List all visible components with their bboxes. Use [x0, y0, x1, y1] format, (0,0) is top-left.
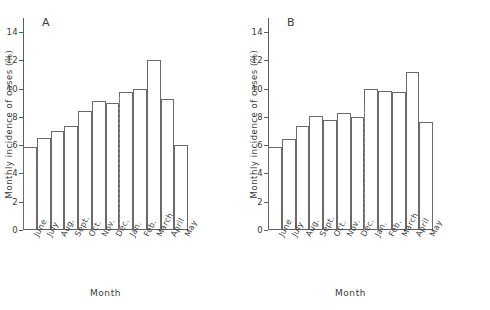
panel-b-y-tick — [264, 173, 268, 174]
panel-b-y-tick-label: 8 — [257, 112, 263, 122]
panel-a-y-tick-label: 0 — [12, 225, 18, 235]
bar-sept — [309, 116, 323, 230]
bar-july — [282, 139, 296, 230]
bar-sept — [64, 126, 78, 230]
panel-a-y-tick-label: 10 — [7, 84, 18, 94]
panel-a-y-tick-label: 12 — [7, 55, 18, 65]
bar-july — [37, 138, 51, 230]
panel-b-y-tick — [264, 202, 268, 203]
bar-oct — [323, 120, 337, 230]
bar-feb — [133, 89, 147, 230]
panel-a: A Monthly incidence of cases (%) JuneJul… — [0, 0, 245, 310]
panel-a-y-tick — [19, 89, 23, 90]
panel-a-y-tick — [19, 32, 23, 33]
bar-may — [419, 122, 433, 230]
year-divider-line — [119, 97, 120, 230]
figure-two-panel-bar-charts: A Monthly incidence of cases (%) JuneJul… — [0, 0, 490, 310]
bar-aug — [296, 126, 310, 230]
panel-b-bars — [268, 18, 433, 230]
panel-b-x-axis-title: Month — [268, 288, 433, 298]
panel-b-y-tick — [264, 89, 268, 90]
panel-a-y-tick — [19, 117, 23, 118]
panel-a-y-tick — [19, 60, 23, 61]
panel-a-y-tick — [19, 145, 23, 146]
panel-a-y-tick — [19, 173, 23, 174]
panel-b: B Monthly incidence of cases (%) JuneJul… — [245, 0, 490, 310]
panel-b-y-tick — [264, 145, 268, 146]
panel-b-y-tick-label: 4 — [257, 168, 263, 178]
panel-b-y-tick — [264, 230, 268, 231]
panel-a-y-tick-label: 14 — [7, 27, 18, 37]
panel-b-y-tick-label: 0 — [257, 225, 263, 235]
panel-b-y-tick-label: 12 — [252, 55, 263, 65]
year-divider-line — [364, 111, 365, 230]
panel-b-y-tick — [264, 117, 268, 118]
panel-a-y-tick-label: 6 — [12, 140, 18, 150]
bar-dec — [351, 117, 365, 230]
panel-a-y-tick — [19, 202, 23, 203]
bar-jan — [364, 89, 378, 230]
bar-nov — [337, 113, 351, 230]
panel-b-y-tick-label: 6 — [257, 140, 263, 150]
panel-b-y-tick — [264, 32, 268, 33]
bar-june — [268, 147, 282, 230]
bar-april — [406, 72, 420, 230]
bar-june — [23, 147, 37, 230]
panel-a-x-axis-title: Month — [23, 288, 188, 298]
panel-a-y-tick — [19, 230, 23, 231]
bar-dec — [106, 103, 120, 230]
panel-b-y-tick-label: 10 — [252, 84, 263, 94]
bar-feb — [378, 91, 392, 230]
bar-march — [392, 92, 406, 231]
bar-oct — [78, 111, 92, 230]
panel-a-y-tick-label: 4 — [12, 168, 18, 178]
panel-a-bars — [23, 18, 188, 230]
bar-jan — [119, 92, 133, 230]
panel-b-y-tick-label: 14 — [252, 27, 263, 37]
panel-a-y-tick-label: 2 — [12, 197, 18, 207]
panel-b-y-tick-label: 2 — [257, 197, 263, 207]
panel-a-plot-area: JuneJulyAug.Sept.Oct.Nov.Dec.Jan.Feb.Mar… — [23, 18, 188, 230]
bar-aug — [51, 131, 65, 230]
bar-nov — [92, 101, 106, 230]
bar-march — [147, 60, 161, 230]
panel-a-y-tick-label: 8 — [12, 112, 18, 122]
panel-b-plot-area: JuneJulyAug.Sept.Oct.Nov.Dec.Jan.Feb.Mar… — [268, 18, 433, 230]
panel-b-y-tick — [264, 60, 268, 61]
